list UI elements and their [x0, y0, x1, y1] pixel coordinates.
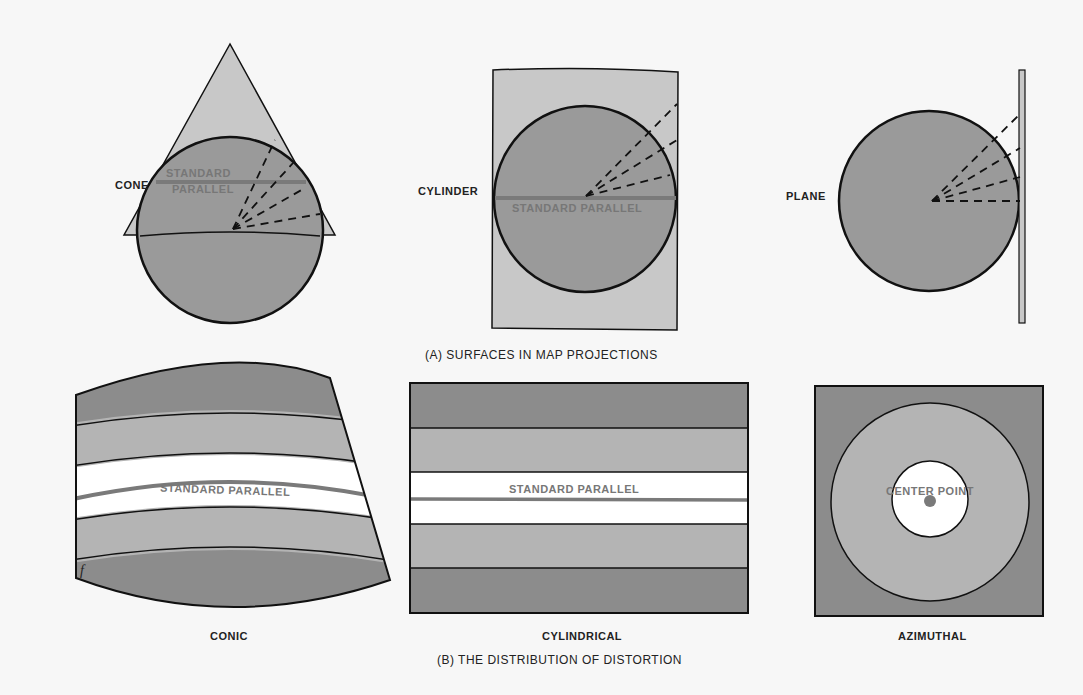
plane-figure [839, 70, 1025, 323]
cylindrical-label: CYLINDRICAL [542, 630, 622, 642]
cylindrical-distortion-figure [410, 383, 748, 613]
conic-distortion-figure [60, 330, 400, 630]
azimuthal-center-label: CENTER POINT [886, 485, 974, 497]
cone-parallel-label-1: STANDARD [166, 167, 231, 179]
panel-b-caption: (B) THE DISTRIBUTION OF DISTORTION [437, 653, 682, 667]
cone-parallel-label-2: PARALLEL [172, 183, 234, 195]
cylinder-label: CYLINDER [418, 185, 478, 197]
panel-a-caption: (A) SURFACES IN MAP PROJECTIONS [425, 348, 658, 362]
cylinder-parallel-label: STANDARD PARALLEL [512, 202, 642, 214]
map-projection-diagram: CONE STANDARD PARALLEL CYLINDER STANDARD… [0, 0, 1083, 695]
cylinder-figure [492, 68, 678, 330]
azimuthal-label: AZIMUTHAL [898, 630, 967, 642]
cylindrical-parallel-label: STANDARD PARALLEL [509, 483, 639, 495]
azimuthal-distortion-figure [815, 386, 1043, 616]
conic-label: CONIC [210, 630, 248, 642]
cone-label: CONE [115, 179, 149, 191]
plane-label: PLANE [786, 190, 826, 202]
